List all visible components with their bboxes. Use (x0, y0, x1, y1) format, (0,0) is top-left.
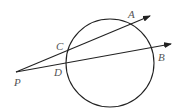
label-c: C (56, 40, 64, 52)
label-p: P (13, 76, 21, 88)
label-b: B (158, 51, 165, 63)
label-a: A (127, 8, 135, 20)
ray-pb (16, 44, 171, 72)
ray-pa (16, 16, 150, 72)
label-d: D (53, 66, 62, 78)
geometry-diagram: P C D A B (0, 0, 180, 112)
